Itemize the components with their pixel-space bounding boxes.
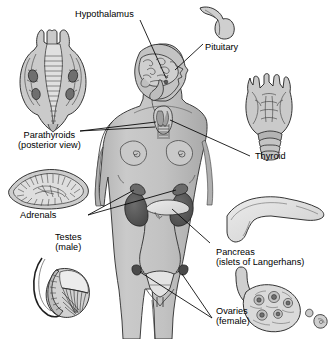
label-pancreas: Pancreas (islets of Langerhans) xyxy=(216,247,304,268)
label-ovaries: Ovaries (female) xyxy=(216,306,250,327)
label-testes-line2: (male) xyxy=(55,242,82,252)
label-adrenals: Adrenals xyxy=(20,210,56,220)
adrenals-inset xyxy=(9,169,89,209)
label-adrenals-line1: Adrenals xyxy=(20,210,56,220)
pancreas-inset xyxy=(227,197,324,242)
label-ovaries-line1: Ovaries xyxy=(216,306,250,316)
label-testes: Testes (male) xyxy=(55,232,82,253)
parathyroids-inset xyxy=(20,30,86,132)
testes-inset xyxy=(34,258,90,317)
label-thyroid-line1: Thyroid xyxy=(255,151,286,161)
label-parathyroids-line2: (posterior view) xyxy=(18,140,81,150)
label-pituitary-line1: Pituitary xyxy=(205,42,238,52)
label-parathyroids-line1: Parathyroids xyxy=(18,130,81,140)
label-ovaries-line2: (female) xyxy=(216,316,250,326)
anatomy-artwork xyxy=(0,0,328,339)
label-hypothalamus-line1: Hypothalamus xyxy=(75,9,134,19)
label-hypothalamus: Hypothalamus xyxy=(75,9,134,19)
label-parathyroids: Parathyroids (posterior view) xyxy=(18,130,81,151)
label-pancreas-line1: Pancreas xyxy=(216,247,304,257)
thyroid-inset xyxy=(246,74,292,160)
pituitary-inset xyxy=(200,7,234,39)
label-pancreas-line2: (islets of Langerhans) xyxy=(216,257,304,267)
leader-ovaries-b xyxy=(182,274,212,318)
label-testes-line1: Testes xyxy=(55,232,82,242)
label-pituitary: Pituitary xyxy=(205,42,238,52)
endocrine-system-figure: Hypothalamus Pituitary Parathyroids (pos… xyxy=(0,0,328,339)
label-thyroid: Thyroid xyxy=(255,151,286,161)
